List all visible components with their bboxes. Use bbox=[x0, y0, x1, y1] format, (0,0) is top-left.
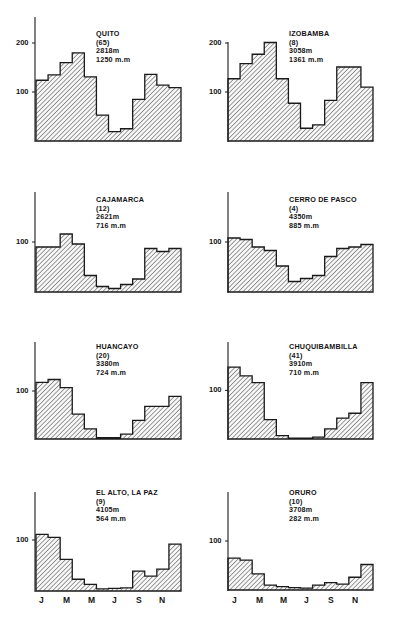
month-label: J bbox=[232, 595, 237, 605]
month-label: M bbox=[256, 595, 263, 605]
station-annual-total: 885 m.m bbox=[289, 222, 357, 231]
station-label-izobamba: IZOBAMBA (8) 3058m 1361 m.m bbox=[289, 30, 329, 64]
histogram-bars bbox=[228, 558, 373, 590]
station-annual-total: 1250 m.m bbox=[96, 56, 130, 65]
histogram-bars bbox=[36, 379, 181, 439]
station-label-cajamarca: CAJAMARCA (12) 2621m 716 m.m bbox=[96, 196, 144, 230]
y-tick-label: 100 bbox=[209, 536, 222, 545]
station-annual-total: 564 m.m bbox=[96, 515, 158, 524]
histogram-bars bbox=[36, 234, 181, 292]
station-annual-total: 724 m.m bbox=[96, 369, 138, 378]
month-label: N bbox=[352, 595, 358, 605]
month-label: J bbox=[112, 595, 117, 605]
station-label-oruro: ORURO (10) 3708m 282 m.m bbox=[289, 489, 319, 523]
month-label: M bbox=[280, 595, 287, 605]
station-name: CERRO DE PASCO bbox=[289, 196, 357, 205]
y-tick-label: 100 bbox=[209, 87, 222, 96]
histogram-bars bbox=[228, 238, 373, 292]
histogram-bars bbox=[228, 367, 373, 439]
y-tick-label: 100 bbox=[16, 237, 29, 246]
station-name: EL ALTO, LA PAZ bbox=[96, 489, 158, 498]
station-annual-total: 710 m.m bbox=[289, 369, 358, 378]
station-label-chuquibambilla: CHUQUIBAMBILLA (41) 3910m 710 m.m bbox=[289, 343, 358, 377]
station-label-el-alto: EL ALTO, LA PAZ (9) 4105m 564 m.m bbox=[96, 489, 158, 523]
y-tick-label: 200 bbox=[16, 38, 29, 47]
month-label: J bbox=[304, 595, 309, 605]
y-tick-label: 100 bbox=[209, 237, 222, 246]
month-label: S bbox=[328, 595, 334, 605]
y-tick-label: 100 bbox=[16, 535, 29, 544]
histogram-bars bbox=[36, 534, 181, 591]
station-annual-total: 716 m.m bbox=[96, 222, 144, 231]
month-label: N bbox=[159, 595, 165, 605]
y-tick-label: 100 bbox=[16, 87, 29, 96]
month-label: J bbox=[39, 595, 44, 605]
station-label-huancayo: HUANCAYO (20) 3380m 724 m.m bbox=[96, 343, 138, 377]
climate-histogram-grid: QUITO (65) 2818m 1250 m.m IZOBAMBA (8) 3… bbox=[0, 0, 397, 628]
histogram-plots bbox=[0, 0, 397, 628]
station-label-cerro-de-pasco: CERRO DE PASCO (4) 4350m 885 m.m bbox=[289, 196, 357, 230]
y-tick-label: 100 bbox=[16, 386, 29, 395]
month-label: M bbox=[63, 595, 70, 605]
station-annual-total: 1361 m.m bbox=[289, 56, 329, 65]
histogram-bars bbox=[36, 53, 181, 141]
y-tick-label: 200 bbox=[209, 38, 222, 47]
month-label: S bbox=[136, 595, 142, 605]
station-annual-total: 282 m.m bbox=[289, 515, 319, 524]
station-label-quito: QUITO (65) 2818m 1250 m.m bbox=[96, 30, 130, 64]
y-tick-label: 100 bbox=[209, 385, 222, 394]
month-label: M bbox=[88, 595, 95, 605]
